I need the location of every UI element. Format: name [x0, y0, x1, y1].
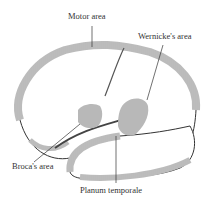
broca-area-region: [78, 104, 102, 128]
label-planum-temporale: Planum temporale: [80, 186, 142, 195]
label-wernicke-area: Wernicke's area: [138, 32, 191, 41]
label-broca-area: Broca's area: [12, 162, 53, 171]
label-motor-area: Motor area: [68, 12, 106, 21]
